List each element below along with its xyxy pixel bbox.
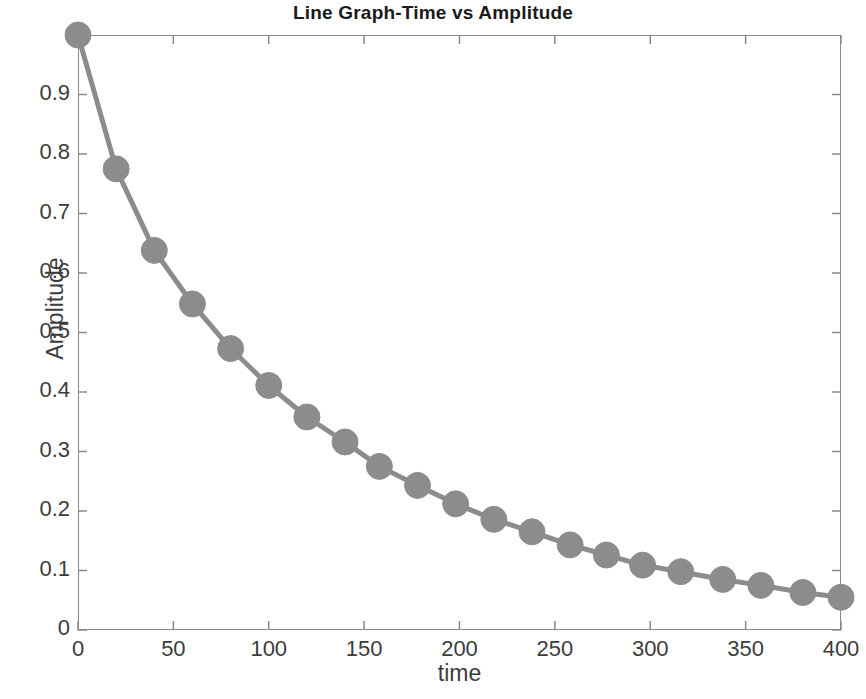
data-point (443, 491, 469, 517)
x-tick-label: 300 (615, 636, 685, 662)
chart-canvas (0, 0, 866, 699)
y-tick-label: 0.4 (8, 377, 70, 403)
data-point (256, 372, 282, 398)
data-point (593, 542, 619, 568)
data-point (519, 519, 545, 545)
data-point (179, 291, 205, 317)
data-point (65, 22, 91, 48)
data-point (790, 580, 816, 606)
x-tick-label: 250 (520, 636, 590, 662)
data-point (481, 506, 507, 532)
y-tick-label: 0.7 (8, 199, 70, 225)
data-point (828, 584, 854, 610)
data-point (103, 156, 129, 182)
x-tick-label: 350 (711, 636, 781, 662)
x-axis-label: time (78, 660, 841, 687)
data-point (748, 572, 774, 598)
y-tick-label: 0.9 (8, 80, 70, 106)
data-point (557, 532, 583, 558)
data-point (294, 404, 320, 430)
data-point (366, 453, 392, 479)
y-tick-label: 0.5 (8, 318, 70, 344)
x-tick-label: 400 (806, 636, 866, 662)
y-tick-label: 0.1 (8, 556, 70, 582)
data-point (668, 559, 694, 585)
y-tick-label: 0 (8, 615, 70, 641)
data-point (630, 552, 656, 578)
chart-root: Line Graph-Time vs Amplitude Amplitude t… (0, 0, 866, 699)
data-point (405, 472, 431, 498)
data-point (710, 566, 736, 592)
x-tick-label: 50 (138, 636, 208, 662)
y-tick-label: 0.3 (8, 437, 70, 463)
y-tick-label: 0.8 (8, 139, 70, 165)
y-tick-label: 0.6 (8, 258, 70, 284)
data-point (332, 429, 358, 455)
x-tick-label: 100 (234, 636, 304, 662)
y-tick-label: 0.2 (8, 496, 70, 522)
data-point (141, 237, 167, 263)
x-tick-label: 200 (425, 636, 495, 662)
data-point (218, 336, 244, 362)
x-tick-label: 150 (329, 636, 399, 662)
